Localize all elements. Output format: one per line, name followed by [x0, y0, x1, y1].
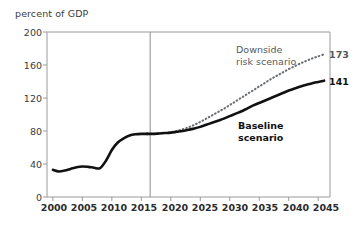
x-tick-marks — [53, 197, 318, 201]
x-tick-label: 2035 — [252, 202, 278, 213]
series-line-historical — [53, 134, 147, 172]
endpoint-label-baseline: 141 — [329, 75, 349, 86]
y-tick-marks — [43, 32, 47, 197]
x-tick-label: 2010 — [101, 202, 127, 213]
x-tick-label: 2040 — [283, 202, 309, 213]
y-tick-label: 160 — [14, 60, 42, 71]
x-tick-label: 2025 — [192, 202, 218, 213]
plot-area — [0, 0, 363, 229]
y-tick-label: 80 — [14, 126, 42, 137]
y-tick-label: 40 — [14, 159, 42, 170]
x-tick-label: 2030 — [222, 202, 248, 213]
annotation-baseline-scenario: Baseline scenario — [238, 120, 283, 143]
annotation-downside-risk-scenario: Downside risk scenario — [236, 44, 296, 67]
x-tick-label: 2005 — [71, 202, 97, 213]
series-line-baseline-scenario — [147, 81, 324, 134]
y-axis-tick-labels: 200 160 120 80 40 0 — [8, 0, 42, 229]
x-tick-label: 2020 — [162, 202, 188, 213]
y-tick-label: 0 — [14, 192, 42, 203]
x-tick-label: 2045 — [313, 202, 339, 213]
y-tick-label: 120 — [14, 93, 42, 104]
chart-figure: percent of GDP 200 160 120 80 40 0 2000 … — [0, 0, 363, 229]
endpoint-label-downside: 173 — [329, 49, 349, 60]
y-tick-label: 200 — [14, 27, 42, 38]
x-tick-label: 2000 — [41, 202, 67, 213]
x-tick-label: 2015 — [131, 202, 157, 213]
